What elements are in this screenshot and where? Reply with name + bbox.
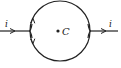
lower-arc-arrow-icon [31, 39, 35, 44]
center-label: C [62, 26, 70, 37]
current-loop-diagram: i C i [0, 0, 121, 68]
upper-arc-arrow-icon [31, 19, 35, 24]
current-in-label: i [5, 19, 8, 29]
center-point [56, 29, 59, 32]
circular-loop [30, 1, 90, 61]
current-out-label: i [109, 19, 112, 29]
